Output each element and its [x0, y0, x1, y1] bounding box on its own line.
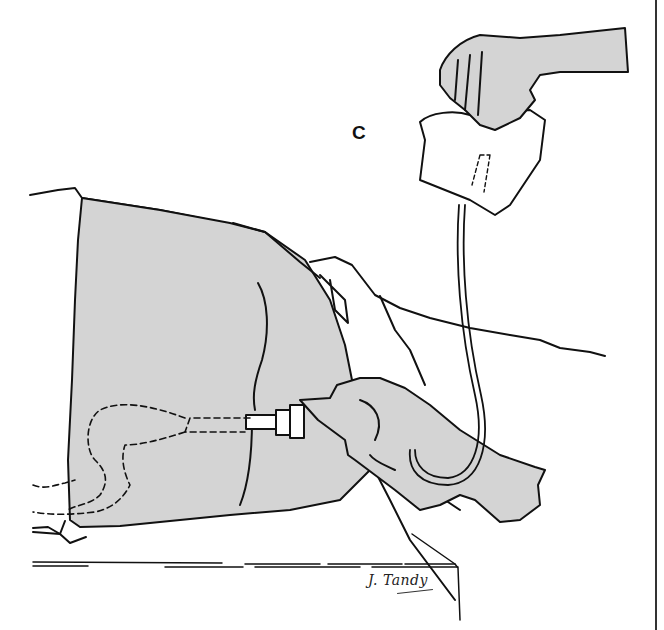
illustration [0, 0, 664, 630]
artist-signature: J. Tandy [368, 572, 428, 588]
panel-label: C [352, 122, 366, 144]
border-line [655, 0, 657, 630]
draped-buttocks [68, 198, 370, 527]
